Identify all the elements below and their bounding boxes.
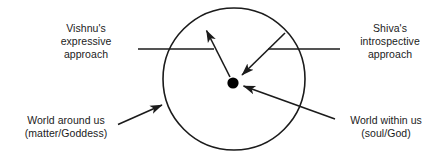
label-vishnu-line-1: Vishnu's [34,22,138,35]
shiva-introspective-arrow [242,33,285,75]
label-shiva-line-1: Shiva's [338,22,442,35]
label-shiva-line-2: introspective [338,35,442,48]
label-vishnu-expressive-approach: Vishnu's expressive approach [34,22,138,62]
label-vishnu-line-2: expressive [34,35,138,48]
vishnu-expressive-arrow [207,31,231,78]
label-world-within-line-1: World within us [332,114,440,127]
label-world-within-us: World within us (soul/God) [332,114,440,140]
center-dot-soul [227,77,238,88]
label-vishnu-line-3: approach [34,48,138,61]
label-shiva-line-3: approach [338,48,442,61]
label-world-around-line-1: World around us [4,114,128,127]
label-world-around-us: World around us (matter/Goddess) [4,114,128,140]
world-within-arrow [244,86,336,119]
diagram-canvas: Vishnu's expressive approach Shiva's int… [0,0,443,162]
label-shiva-introspective-approach: Shiva's introspective approach [338,22,442,62]
label-world-within-line-2: (soul/God) [332,127,440,140]
label-world-around-line-2: (matter/Goddess) [4,127,128,140]
